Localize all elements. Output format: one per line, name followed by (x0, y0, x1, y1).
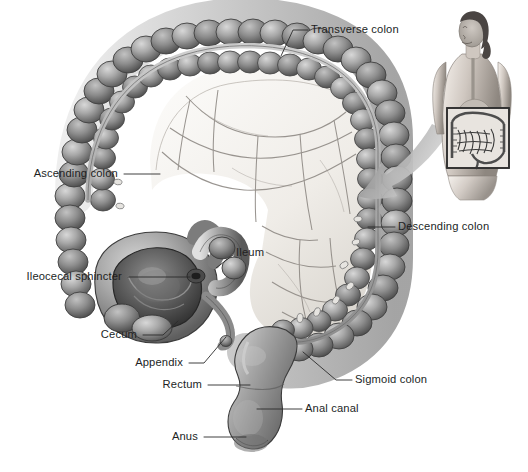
anatomy-illustration (0, 0, 528, 472)
label-ileum: Ileum (236, 247, 264, 258)
appendix (206, 296, 232, 347)
label-ascending-colon: Ascending colon (34, 168, 118, 179)
label-rectum: Rectum (163, 379, 202, 390)
label-anus: Anus (172, 431, 198, 442)
label-descending-colon: Descending colon (398, 221, 489, 232)
label-appendix: Appendix (135, 357, 183, 368)
large-intestine-figure: Transverse colonAscending colonIleocecal… (0, 0, 528, 472)
label-anal-canal: Anal canal (305, 403, 359, 414)
ileocecal-sphincter (187, 269, 205, 283)
label-cecum: Cecum (101, 329, 137, 340)
label-transverse-colon: Transverse colon (311, 24, 399, 35)
label-ileocecal-sphincter: Ileocecal sphincter (26, 271, 122, 282)
rectum-anal-canal (228, 327, 297, 452)
body-inset (433, 11, 512, 200)
label-sigmoid-colon: Sigmoid colon (355, 374, 427, 385)
